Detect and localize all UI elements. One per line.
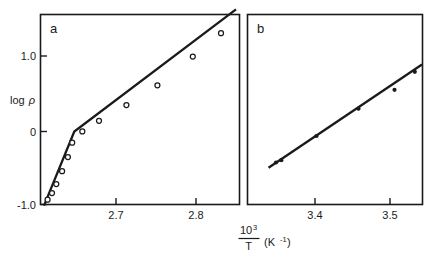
- panel-a-point: [45, 197, 50, 202]
- panel-a-data-markers: [45, 31, 223, 203]
- x-axis-label: 10 3 T (K -1 ): [239, 223, 291, 253]
- x-axis-label-units-open: (K: [264, 236, 276, 248]
- panel-a-frame: [41, 15, 240, 205]
- panel-a-point: [54, 182, 59, 187]
- panel-a-point: [219, 31, 224, 36]
- y-axis-label-symbol: ρ: [28, 94, 35, 106]
- panel-a-point: [97, 118, 102, 123]
- panel-a-point: [80, 129, 85, 134]
- panel-b-point: [413, 70, 417, 74]
- panel-b-xtick-label-1: 3.4: [307, 209, 322, 221]
- panel-b-point: [314, 134, 318, 138]
- panel-a-xtick-label-1: 2.7: [108, 209, 123, 221]
- panel-a-xtick-label-2: 2.8: [188, 209, 203, 221]
- panel-b-fit-line: [269, 65, 423, 168]
- x-axis-label-units-close: ): [287, 236, 291, 248]
- panel-b-point: [356, 107, 360, 111]
- panel-a-ytick-label-3: -1.0: [17, 199, 36, 211]
- y-axis-label-text: log: [10, 94, 25, 106]
- panel-b-point: [274, 160, 278, 164]
- panel-a-point: [60, 169, 65, 174]
- panel-a-ytick-label-1: 1.0: [21, 50, 36, 62]
- panel-b-xtick-label-2: 3.5: [382, 209, 397, 221]
- panel-a: 1.0 0 -1.0 2.7 2.8 a: [17, 9, 239, 221]
- figure-root: 1.0 0 -1.0 2.7 2.8 a: [0, 0, 434, 257]
- x-axis-label-numerator: 10: [240, 224, 252, 236]
- panel-a-point: [65, 155, 70, 160]
- panel-a-point: [155, 83, 160, 88]
- panel-b-frame: [248, 15, 423, 205]
- x-axis-label-units-exponent: -1: [280, 235, 287, 244]
- panel-a-fit-line: [44, 9, 236, 205]
- panel-b-label: b: [257, 21, 264, 36]
- panel-a-point: [50, 191, 55, 196]
- panel-a-ytick-label-2: 0: [30, 126, 36, 138]
- panel-b: 3.4 3.5 b: [248, 15, 423, 222]
- panel-a-point: [190, 54, 195, 59]
- x-axis-label-numerator-exponent: 3: [253, 223, 257, 232]
- panel-b-point: [279, 158, 283, 162]
- panel-a-point: [124, 103, 129, 108]
- panel-b-point: [392, 88, 396, 92]
- y-axis-label: log ρ: [10, 94, 35, 106]
- panel-a-point: [70, 140, 75, 145]
- panel-a-label: a: [50, 21, 58, 36]
- x-axis-label-denominator: T: [245, 240, 252, 252]
